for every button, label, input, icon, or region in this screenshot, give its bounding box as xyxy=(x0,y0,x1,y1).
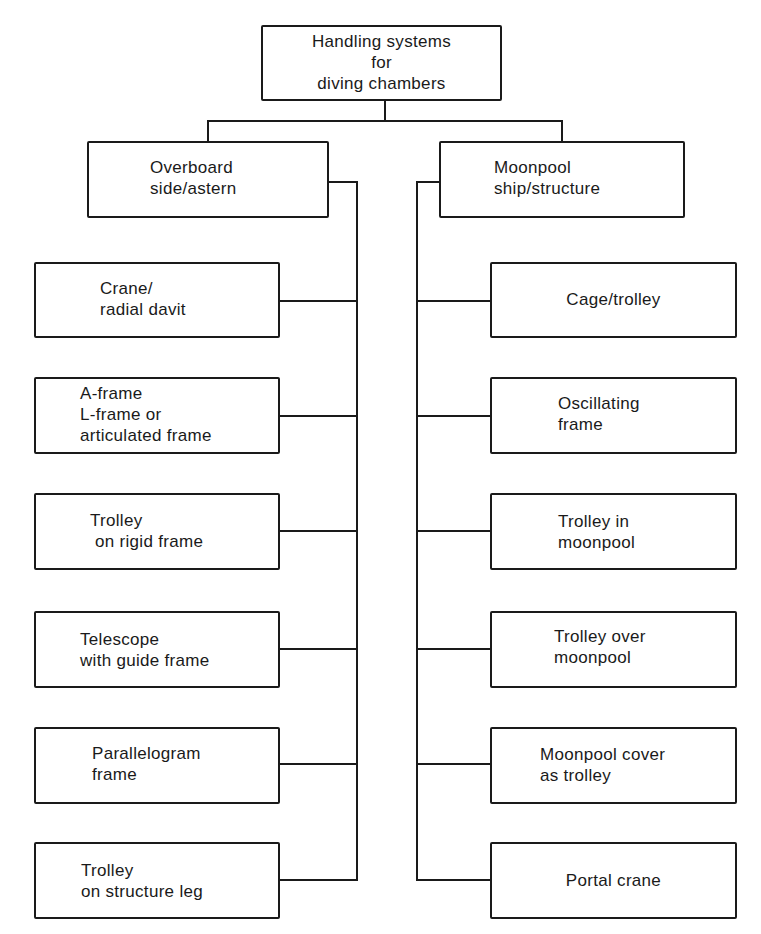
right-connector xyxy=(416,415,492,417)
root-stem xyxy=(384,99,386,121)
branch-overboard: Overboard side/astern xyxy=(87,141,329,218)
node-trolley-structure-leg: Trolley on structure leg xyxy=(34,842,280,919)
node-label: Oscillating frame xyxy=(558,393,640,435)
left-spine-top xyxy=(327,181,358,183)
node-label: Trolley on structure leg xyxy=(81,860,203,902)
node-label: Trolley on rigid frame xyxy=(90,510,203,552)
right-connector xyxy=(416,648,492,650)
node-label: A-frame L-frame or articulated frame xyxy=(80,383,212,446)
node-a-frame: A-frame L-frame or articulated frame xyxy=(34,377,280,454)
node-label: Telescope with guide frame xyxy=(80,629,210,671)
branch-label: Moonpool ship/structure xyxy=(494,157,600,199)
node-trolley-rigid-frame: Trolley on rigid frame xyxy=(34,493,280,570)
right-connector xyxy=(416,530,492,532)
left-connector xyxy=(278,648,357,650)
left-connector xyxy=(278,763,357,765)
right-connector xyxy=(416,300,492,302)
root-bus xyxy=(207,120,563,122)
right-connector xyxy=(416,879,492,881)
node-trolley-in-moonpool: Trolley in moonpool xyxy=(490,493,737,570)
node-label: Moonpool cover as trolley xyxy=(540,744,665,786)
root-label: Handling systems for diving chambers xyxy=(263,31,500,94)
left-connector xyxy=(278,300,357,302)
node-moonpool-cover-trolley: Moonpool cover as trolley xyxy=(490,727,737,804)
node-portal-crane: Portal crane xyxy=(490,842,737,919)
node-oscillating-frame: Oscillating frame xyxy=(490,377,737,454)
left-connector xyxy=(278,879,357,881)
branch-moonpool: Moonpool ship/structure xyxy=(439,141,685,218)
node-label: Parallelogram frame xyxy=(92,743,201,785)
branch-label: Overboard side/astern xyxy=(150,157,236,199)
left-connector xyxy=(278,530,357,532)
left-branch-drop xyxy=(207,120,209,143)
node-label: Portal crane xyxy=(492,870,735,891)
node-label: Trolley in moonpool xyxy=(558,511,635,553)
right-connector xyxy=(416,763,492,765)
right-branch-drop xyxy=(561,120,563,143)
node-crane-radial-davit: Crane/ radial davit xyxy=(34,262,280,338)
node-trolley-over-moonpool: Trolley over moonpool xyxy=(490,611,737,688)
node-parallelogram-frame: Parallelogram frame xyxy=(34,727,280,804)
node-label: Trolley over moonpool xyxy=(554,626,646,668)
node-label: Crane/ radial davit xyxy=(100,278,186,320)
left-connector xyxy=(278,415,357,417)
node-label: Cage/trolley xyxy=(492,289,735,310)
root-node: Handling systems for diving chambers xyxy=(261,25,502,101)
right-spine-top xyxy=(417,181,441,183)
node-cage-trolley: Cage/trolley xyxy=(490,262,737,338)
node-telescope-guide-frame: Telescope with guide frame xyxy=(34,611,280,688)
